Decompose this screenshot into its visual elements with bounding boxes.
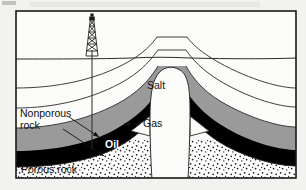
salt-dome-cross-section-figure: Salt Gas Oil Nonporous rock Porous rock bbox=[0, 0, 306, 190]
oil-label: Oil bbox=[105, 138, 119, 150]
salt-label: Salt bbox=[147, 79, 165, 91]
gas-label: Gas bbox=[143, 117, 162, 129]
nonporous-rock-label-line2: rock bbox=[20, 119, 41, 131]
figure-root: Salt Gas Oil Nonporous rock Porous rock bbox=[0, 0, 306, 190]
nonporous-rock-label-line1: Nonporous bbox=[20, 107, 71, 119]
porous-rock-label: Porous rock bbox=[21, 163, 78, 175]
scan-edge-mark bbox=[2, 1, 16, 5]
